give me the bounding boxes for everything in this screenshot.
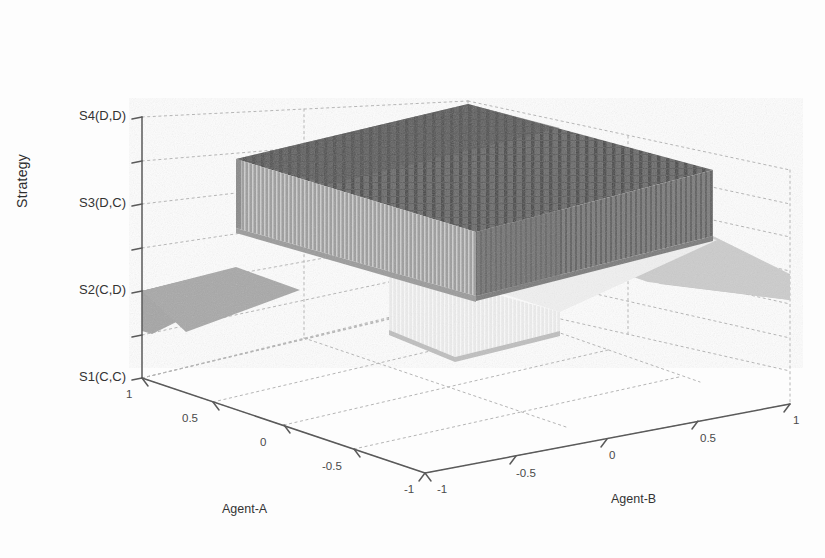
y-tick-label-0: 0 <box>609 449 615 461</box>
y-tick-label-m1: -1 <box>437 483 447 495</box>
z-tick-label-s1: S1(C,C) <box>38 369 126 384</box>
figure-3d-surface-plot: Strategy S4(D,D) S3(D,C) S2(C,D) S1(C,C)… <box>0 0 825 558</box>
z-tick-m3 <box>132 161 142 163</box>
x-tick-label-m1: -1 <box>404 483 414 495</box>
x-axis-title: Agent-A <box>222 502 267 516</box>
z-tick-m2 <box>132 248 142 250</box>
plot-canvas <box>0 0 825 558</box>
z-tick-label-s4: S4(D,D) <box>38 108 126 123</box>
x-tick-label-0: 0 <box>260 436 266 448</box>
x-tick-label-1: 1 <box>126 388 132 400</box>
y-axis-title: Agent-B <box>611 492 656 506</box>
z-axis-title: Strategy <box>14 126 30 236</box>
surface-region-s4-wall-left-edge <box>236 159 241 229</box>
surface-mesh <box>142 104 790 362</box>
z-tick-s3 <box>132 204 142 206</box>
z-tick-label-s3: S3(D,C) <box>38 195 126 210</box>
z-tick-s2 <box>132 291 142 293</box>
z-tick-s1 <box>132 378 142 380</box>
z-tick-label-s2: S2(C,D) <box>38 282 126 297</box>
z-tick-m1 <box>132 335 142 337</box>
x-tick-m1 <box>425 473 431 481</box>
x-tick-label-m0_5: -0.5 <box>322 460 342 472</box>
x-tick-label-0_5: 0.5 <box>182 412 198 424</box>
y-tick-label-0_5: 0.5 <box>700 432 716 444</box>
y-tick-label-m0_5: -0.5 <box>516 467 536 479</box>
y-tick-m1 <box>419 473 425 481</box>
z-tick-s4 <box>132 117 142 119</box>
y-tick-label-1: 1 <box>793 414 799 426</box>
